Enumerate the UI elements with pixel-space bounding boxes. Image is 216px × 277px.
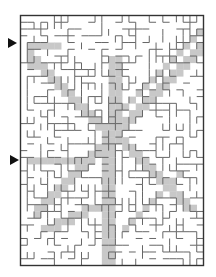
lower-entrance-arrow-icon — [10, 155, 19, 165]
maze-board — [0, 0, 216, 277]
upper-entrance-arrow-icon — [8, 38, 17, 48]
